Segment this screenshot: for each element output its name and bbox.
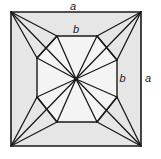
figure-root: a b b a — [0, 0, 161, 159]
label-side-a-right: a — [142, 73, 154, 84]
center-vertex-dot — [74, 77, 78, 81]
label-side-a-top: a — [66, 1, 80, 12]
label-side-b-right: b — [117, 73, 128, 84]
label-side-b-top: b — [70, 24, 82, 35]
